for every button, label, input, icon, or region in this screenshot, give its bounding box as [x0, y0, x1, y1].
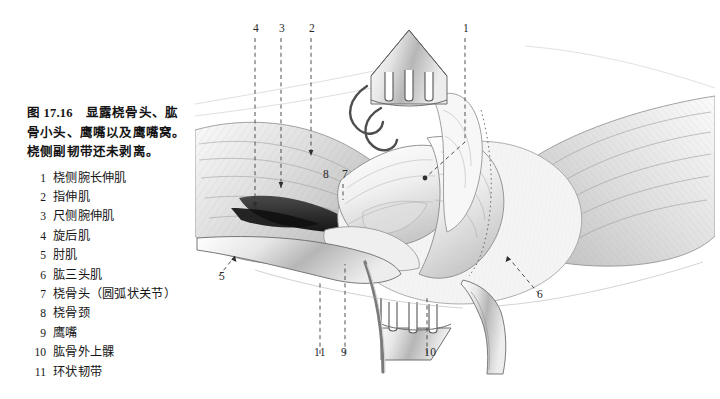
legend-label: 桡骨头（圆弧状关节） — [53, 285, 176, 303]
bottom-rake-retractor[interactable] — [381, 298, 451, 360]
callout-10: 10 — [424, 346, 436, 358]
caption-line-1: 图 17.16 显露桡骨头、肱 — [27, 104, 217, 124]
legend-label: 肘肌 — [53, 246, 78, 264]
legend-number: 7 — [27, 286, 46, 304]
legend-label: 鹰嘴 — [53, 324, 78, 342]
legend-item: 5 肘肌 — [27, 246, 217, 265]
legend-number: 1 — [27, 170, 46, 188]
caption-line-2: 骨小头、鹰嘴以及鹰嘴窝。 — [27, 124, 217, 144]
legend-item: 4 旋后肌 — [27, 227, 217, 246]
legend-label: 桡侧腕长伸肌 — [53, 169, 127, 187]
legend-item: 11 环状韧带 — [27, 363, 217, 382]
legend-item: 8 桡骨颈 — [27, 304, 217, 323]
legend-item: 7 桡骨头（圆弧状关节） — [27, 285, 217, 304]
rake-prongs — [385, 70, 433, 101]
legend-item: 10 肱骨外上髁 — [27, 343, 217, 362]
anatomical-illustration — [195, 12, 715, 382]
legend-item: 9 鹰嘴 — [27, 324, 217, 343]
legend-item: 3 尺侧腕伸肌 — [27, 207, 217, 226]
callout-6: 6 — [537, 288, 543, 300]
callout-3: 3 — [279, 22, 285, 34]
callout-7: 7 — [342, 168, 348, 180]
callout-11: 11 — [314, 346, 326, 358]
legend-number: 6 — [27, 267, 46, 285]
periosteal-elevator[interactable] — [197, 237, 401, 372]
legend-label: 旋后肌 — [53, 227, 90, 245]
figure-page: 图 17.16 显露桡骨头、肱 骨小头、鹰嘴以及鹰嘴窝。 桡侧副韧带还未剥离。 … — [0, 0, 720, 399]
legend-number: 9 — [27, 325, 46, 343]
legend-number: 5 — [27, 247, 46, 265]
legend-label: 肱骨外上髁 — [53, 343, 115, 361]
legend-item: 2 指伸肌 — [27, 188, 217, 207]
legend-label: 尺侧腕伸肌 — [53, 207, 115, 225]
legend-label: 肱三头肌 — [53, 266, 102, 284]
legend-number: 3 — [27, 208, 46, 226]
callout-9: 9 — [341, 346, 347, 358]
legend-label: 环状韧带 — [53, 363, 102, 381]
callout-4: 4 — [253, 22, 259, 34]
legend-item: 6 肱三头肌 — [27, 266, 217, 285]
callout-1: 1 — [463, 22, 469, 34]
top-rake-retractor[interactable] — [371, 30, 447, 106]
callout-8: 8 — [323, 168, 329, 180]
caption-line-3: 桡侧副韧带还未剥离。 — [27, 143, 217, 163]
legend-number: 2 — [27, 189, 46, 207]
legend-number: 10 — [27, 344, 46, 362]
legend-label: 桡骨颈 — [53, 304, 90, 322]
legend-number: 11 — [27, 364, 46, 382]
figure-legend-list: 1 桡侧腕长伸肌 2 指伸肌 3 尺侧腕伸肌 4 旋后肌 5 肘肌 6 肱三头肌 — [27, 169, 217, 382]
callout-5: 5 — [219, 270, 225, 282]
legend-number: 4 — [27, 228, 46, 246]
callout-2: 2 — [309, 22, 315, 34]
legend-label: 指伸肌 — [53, 188, 90, 206]
legend-item: 1 桡侧腕长伸肌 — [27, 169, 217, 188]
figure-caption-block: 图 17.16 显露桡骨头、肱 骨小头、鹰嘴以及鹰嘴窝。 桡侧副韧带还未剥离。 … — [27, 104, 217, 382]
legend-number: 8 — [27, 305, 46, 323]
